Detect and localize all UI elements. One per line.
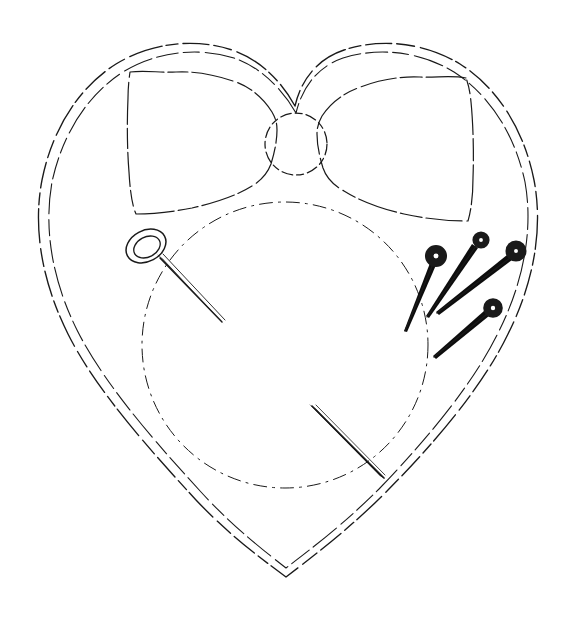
bow-right-wing (317, 77, 473, 221)
heart-outline (38, 43, 537, 577)
needle-shaft-edge (160, 258, 222, 322)
loose-needle-lower (309, 404, 385, 479)
bow-left-wing (127, 71, 277, 214)
pin-1-head (429, 249, 443, 263)
needle-eye-inner (130, 232, 164, 263)
loose-needle-edge (312, 406, 384, 478)
pin-4-head (487, 302, 499, 314)
pin-2-shaft-edge (427, 246, 476, 317)
pin-1-shaft-edge (405, 264, 433, 331)
needle-shaft-edge-secondary (163, 254, 225, 320)
loose-needle-edge-secondary (316, 405, 385, 475)
pin-3 (436, 245, 522, 315)
pin-4-shaft-edge (434, 314, 487, 357)
inner-dashed-circle (142, 202, 428, 488)
pin-3-head (510, 245, 523, 258)
sewing-needle (120, 222, 225, 324)
pin-2-head (476, 235, 487, 246)
heart-pincushion-drawing (0, 0, 575, 620)
heart-outer-contour-line (38, 43, 537, 577)
artboard: Heart-shaped pincushion with bow, needle… (0, 0, 575, 620)
cushion-face-circle (142, 202, 428, 488)
pin-1 (404, 249, 443, 332)
heart-inner-contour-line (49, 52, 528, 568)
bow (127, 71, 473, 221)
